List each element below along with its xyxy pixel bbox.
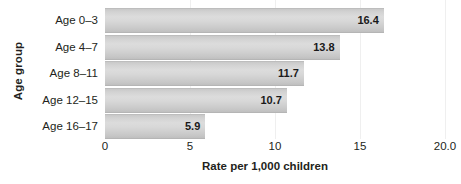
y-tick-label: Age 4–7 bbox=[55, 35, 98, 60]
gridline-20 bbox=[445, 0, 446, 139]
bar-row[interactable]: 11.7 bbox=[105, 61, 445, 86]
x-tick-label: 20.0 bbox=[434, 140, 456, 152]
bar-value-label: 10.7 bbox=[105, 88, 282, 113]
bar-value-label: 5.9 bbox=[105, 114, 200, 139]
x-axis-title: Rate per 1,000 children bbox=[105, 160, 425, 172]
plot-area: 16.413.811.710.75.9 bbox=[105, 0, 445, 139]
bar-value-label: 11.7 bbox=[105, 61, 299, 86]
bar-value-label: 16.4 bbox=[105, 8, 379, 33]
x-tick-label: 15 bbox=[354, 140, 367, 152]
y-axis-tick-labels: Age 0–3Age 4–7Age 8–11Age 12–15Age 16–17 bbox=[34, 8, 102, 138]
bar-row[interactable]: 10.7 bbox=[105, 88, 445, 113]
bar-value-label: 13.8 bbox=[105, 35, 335, 60]
bar-chart: Age group Age 0–3Age 4–7Age 8–11Age 12–1… bbox=[0, 0, 461, 184]
x-tick-label: 5 bbox=[187, 140, 193, 152]
y-tick-label: Age 0–3 bbox=[55, 8, 98, 33]
y-tick-label: Age 16–17 bbox=[42, 114, 98, 139]
y-tick-label: Age 12–15 bbox=[42, 88, 98, 113]
x-axis-tick-labels: 05101520.0 bbox=[105, 140, 445, 156]
bar-row[interactable]: 5.9 bbox=[105, 114, 445, 139]
x-tick-label: 10 bbox=[269, 140, 282, 152]
bar-row[interactable]: 16.4 bbox=[105, 8, 445, 33]
y-axis-title-text: Age group bbox=[12, 42, 24, 100]
x-tick-label: 0 bbox=[102, 140, 108, 152]
bar-row[interactable]: 13.8 bbox=[105, 35, 445, 60]
y-tick-label: Age 8–11 bbox=[50, 61, 98, 86]
y-axis-title: Age group bbox=[0, 0, 36, 142]
